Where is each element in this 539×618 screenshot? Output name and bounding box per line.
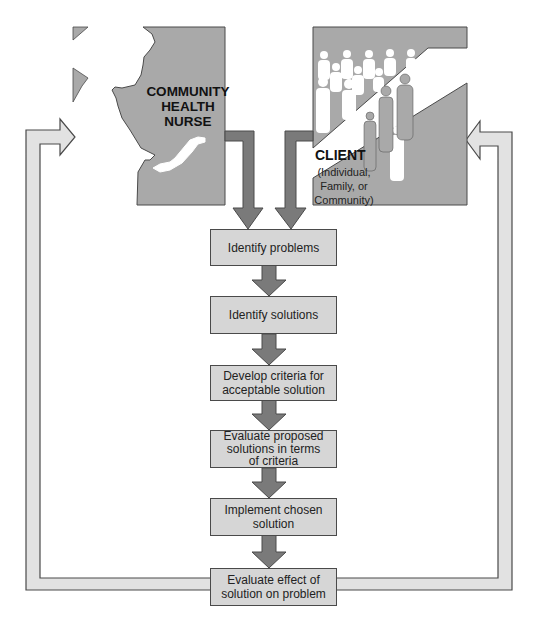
step-text: Identify solutions (229, 308, 318, 322)
step-text: Evaluate effect of (221, 573, 326, 587)
nurse-label-line: COMMUNITY (140, 84, 236, 99)
client-to-process-arrow (275, 131, 313, 229)
step-text: Evaluate proposed (223, 430, 323, 443)
step-text: Implement chosen (224, 503, 322, 517)
step-text: Develop criteria for (222, 369, 325, 383)
step-text: Identify problems (228, 241, 319, 255)
client-title: CLIENT (315, 147, 366, 163)
nurse-label-line: NURSE (140, 114, 236, 129)
step-text: of criteria (223, 455, 323, 468)
client-subtitle-line: Community) (313, 193, 375, 207)
step-identify-solutions: Identify solutions (210, 296, 337, 334)
step-develop-criteria: Develop criteria for acceptable solution (210, 365, 337, 401)
nurse-label: COMMUNITY HEALTH NURSE (140, 84, 236, 129)
step-identify-problems: Identify problems (210, 229, 337, 266)
step-text: solution on problem (221, 587, 326, 601)
client-subtitle: (Individual, Family, or Community) (313, 165, 375, 207)
step-evaluate-effect: Evaluate effect of solution on problem (210, 568, 337, 606)
client-subtitle-line: Family, or (313, 179, 375, 193)
step-text: solution (224, 517, 322, 531)
client-subtitle-line: (Individual, (313, 165, 375, 179)
step-implement-solution: Implement chosen solution (210, 498, 337, 536)
step-evaluate-proposed: Evaluate proposed solutions in terms of … (210, 430, 337, 468)
nurse-to-process-arrow (225, 131, 263, 229)
nurse-label-line: HEALTH (140, 99, 236, 114)
step-text: acceptable solution (222, 383, 325, 397)
